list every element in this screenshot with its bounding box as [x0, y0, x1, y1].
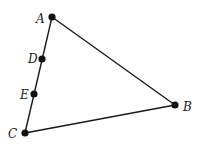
segment-ab [52, 17, 175, 105]
label-d: D [27, 52, 38, 66]
point-a [48, 13, 55, 20]
label-c: C [8, 127, 17, 141]
segment-bc [25, 105, 175, 133]
triangle-diagram: A D E C B [0, 0, 203, 146]
label-e: E [19, 88, 29, 102]
point-c [21, 129, 28, 136]
point-e [30, 90, 37, 97]
segment-ca [25, 17, 52, 133]
point-b [171, 101, 178, 108]
label-b: B [182, 100, 192, 114]
label-a: A [35, 12, 45, 26]
point-d [38, 55, 45, 62]
